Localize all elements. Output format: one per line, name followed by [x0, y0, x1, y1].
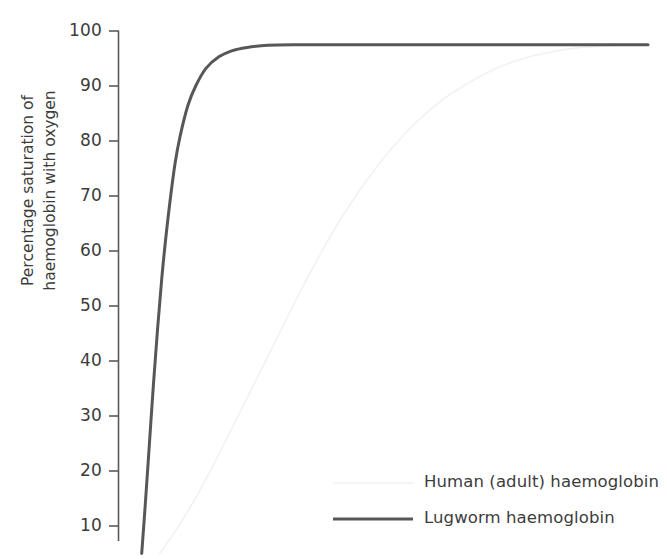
y-tick-label-20: 20: [44, 460, 102, 480]
legend-label-lugworm: Lugworm haemoglobin: [424, 508, 615, 527]
legend-label-human: Human (adult) haemoglobin: [424, 472, 659, 491]
y-axis-ticks: [109, 31, 119, 526]
y-tick-label-10: 10: [44, 515, 102, 535]
y-axis-title: Percentage saturation of haemoglobin wit…: [17, 65, 62, 315]
y-tick-label-40: 40: [44, 350, 102, 370]
y-tick-label-100: 100: [44, 20, 102, 40]
y-tick-label-30: 30: [44, 405, 102, 425]
oxygen-dissociation-chart: 100 90 80 70 60 50 40 30 20 10 Percentag…: [0, 0, 667, 559]
